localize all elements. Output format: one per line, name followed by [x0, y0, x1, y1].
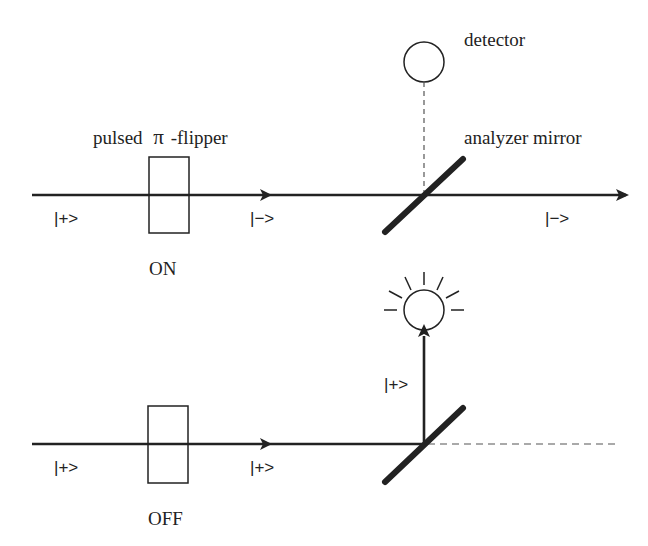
- state-label-input-on: |+>: [54, 209, 78, 228]
- detector-icon-off: [404, 42, 444, 82]
- state-label-input-off: |+>: [54, 458, 78, 477]
- flipper-state-on: ON: [149, 258, 177, 279]
- panel-on: pulsed π -flipper |+> |−> |−> ON detecto…: [32, 29, 629, 279]
- detector-label: detector: [464, 29, 526, 50]
- state-label-after-flipper-on: |−>: [250, 209, 274, 228]
- flipper-state-off: OFF: [148, 508, 183, 529]
- detector-icon-lit: [384, 272, 464, 330]
- state-label-reflected-off: |+>: [384, 375, 408, 394]
- state-label-after-flipper-off: |+>: [250, 458, 274, 477]
- analyzer-mirror-label: analyzer mirror: [464, 127, 582, 148]
- state-label-transmitted-on: |−>: [545, 209, 569, 228]
- panel-off: |+> |+> |+> OFF: [32, 272, 620, 529]
- neutron-spin-flip-diagram: pulsed π -flipper |+> |−> |−> ON detecto…: [0, 0, 648, 546]
- flipper-label: pulsed π -flipper: [93, 125, 228, 149]
